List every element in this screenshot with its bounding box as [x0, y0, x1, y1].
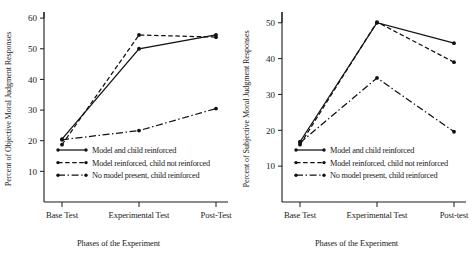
svg-text:Model reinforced, child not re: Model reinforced, child not reinforced	[330, 159, 449, 168]
svg-text:Post-Test: Post-Test	[201, 210, 233, 220]
svg-text:Model and child reinforced: Model and child reinforced	[330, 146, 415, 155]
svg-text:No model present, child reinfo: No model present, child reinforced	[92, 171, 200, 180]
x-axis-title-left: Phases of the Experiment	[0, 239, 237, 248]
svg-text:50: 50	[28, 44, 38, 54]
svg-text:Experimental Test: Experimental Test	[347, 210, 408, 220]
figure-container: Percent of Objective Moral Judgment Resp…	[0, 0, 475, 262]
svg-text:20: 20	[266, 126, 276, 136]
svg-text:20: 20	[28, 136, 38, 146]
x-axis-title-right: Phases of the Experiment	[238, 239, 475, 248]
svg-text:30: 30	[28, 105, 38, 115]
svg-text:10: 10	[266, 161, 276, 171]
svg-text:Experimental Test: Experimental Test	[109, 210, 170, 220]
svg-text:40: 40	[266, 54, 276, 64]
chart-panel-right: Percent of Subjective Moral Judgment Res…	[238, 0, 475, 250]
svg-text:10: 10	[28, 167, 38, 177]
svg-text:60: 60	[28, 13, 38, 23]
figure-caption	[0, 251, 475, 262]
svg-text:40: 40	[28, 75, 38, 85]
svg-text:30: 30	[266, 90, 276, 100]
plot-area-right: 1020304050Base TestExperimental TestPost…	[238, 0, 475, 235]
chart-panel-left: Percent of Objective Moral Judgment Resp…	[0, 0, 237, 250]
svg-text:Model and child reinforced: Model and child reinforced	[92, 146, 177, 155]
svg-text:Base Test: Base Test	[46, 210, 79, 220]
svg-text:No model present, child reinfo: No model present, child reinforced	[330, 171, 438, 180]
plot-area-left: 102030405060Base TestExperimental TestPo…	[0, 0, 237, 235]
svg-text:Post-test: Post-test	[440, 210, 469, 220]
svg-text:Base Test: Base Test	[284, 210, 317, 220]
svg-text:Model reinforced, child not re: Model reinforced, child not reinforced	[92, 159, 211, 168]
svg-text:50: 50	[266, 18, 276, 28]
